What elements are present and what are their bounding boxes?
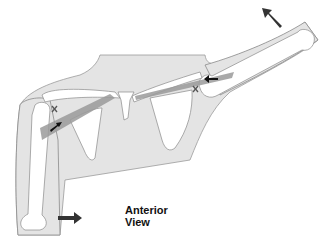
arrow-up-left-icon (262, 8, 282, 28)
view-label: Anterior View (125, 204, 168, 228)
view-label-line2: View (125, 216, 168, 228)
anatomy-diagram: Anterior View (0, 0, 332, 245)
view-label-line1: Anterior (125, 204, 168, 216)
